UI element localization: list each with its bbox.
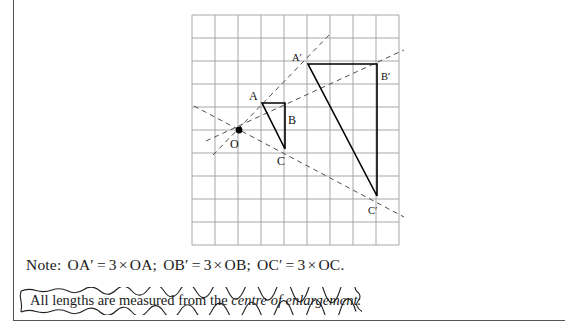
note-item-2-eq: = <box>283 256 298 273</box>
callout-box: All lengths are measured from the centre… <box>18 287 366 315</box>
note-item-0-sep: ; <box>153 256 158 273</box>
vertex-label-A: A <box>249 89 258 103</box>
note-item-0-factor: 3 <box>109 256 117 273</box>
vertex-label-B: B <box>288 113 296 127</box>
vertex-label-O: O <box>230 137 239 151</box>
page-frame-bottom-rule <box>13 320 565 321</box>
note-item-2-times: × <box>306 256 319 273</box>
note-item-1: OB′=3×OB; <box>163 256 255 273</box>
note-item-0-eq: = <box>94 256 109 273</box>
callout-text-plain: All lengths are measured from the <box>30 292 231 308</box>
note-item-0-left: OA <box>68 256 91 273</box>
note-item-1-times: × <box>212 256 225 273</box>
note-item-1-factor: 3 <box>204 256 212 273</box>
note-prefix: Note: <box>26 256 61 273</box>
callout-text-italic: centre of enlargement. <box>231 292 361 308</box>
vertex-label-C: C <box>277 154 285 168</box>
note-line: Note: OA′=3×OA; OB′=3×OB; OC′=3×OC. <box>26 256 344 274</box>
note-item-1-sep: ; <box>246 256 251 273</box>
callout-text: All lengths are measured from the centre… <box>30 292 361 309</box>
page-root: A B C A′ B′ C′ O Note: OA′=3×OA; OB′=3×O… <box>0 0 579 331</box>
note-item-1-left: OB <box>163 256 185 273</box>
centre-of-enlargement-dot <box>236 127 243 134</box>
note-item-0-right: OA <box>130 256 153 273</box>
note-item-2-sep: . <box>340 256 344 273</box>
enlargement-figure: A B C A′ B′ C′ O <box>0 0 579 250</box>
note-item-2-left: OC <box>257 256 279 273</box>
vertex-label-B-prime: B′ <box>381 71 390 82</box>
figure-svg: A B C A′ B′ C′ O <box>0 0 579 250</box>
note-item-2-right: OC <box>318 256 340 273</box>
note-item-2-factor: 3 <box>298 256 306 273</box>
ray-through-C <box>194 106 404 217</box>
vertex-label-A-prime: A′ <box>292 52 302 63</box>
note-item-1-right: OB <box>225 256 247 273</box>
note-item-0-times: × <box>117 256 130 273</box>
vertex-label-C-prime: C′ <box>368 205 377 216</box>
note-item-2: OC′=3×OC. <box>257 256 344 273</box>
note-item-0: OA′=3×OA; <box>68 256 162 273</box>
note-item-1-eq: = <box>189 256 204 273</box>
